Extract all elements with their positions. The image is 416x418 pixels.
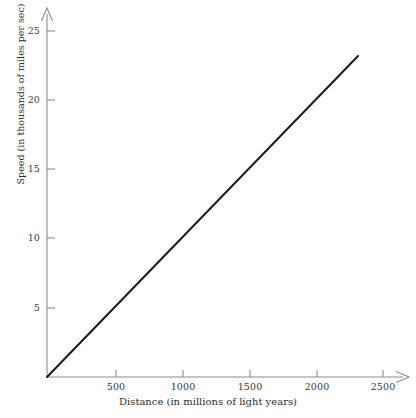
x-tick-label-2500: 2500 [361, 381, 405, 392]
x-tick-label-2000: 2000 [295, 381, 339, 392]
y-axis-title: Speed (in thousands of miles per sec) [13, 0, 29, 194]
x-axis-title: Distance (in millions of light years) [0, 396, 416, 407]
y-tick-label-5: 5 [14, 302, 40, 313]
data-line-speed-vs-distance [47, 56, 358, 377]
chart-plot-area [0, 0, 416, 418]
x-axis-ticks [116, 370, 383, 377]
x-tick-label-1500: 1500 [228, 381, 272, 392]
x-tick-label-1000: 1000 [161, 381, 205, 392]
y-axis-ticks [47, 31, 55, 308]
y-axis-title-wrapper: Speed (in thousands of miles per sec) [13, 0, 29, 194]
y-tick-label-10: 10 [14, 232, 40, 243]
x-tick-label-500: 500 [94, 381, 138, 392]
chart-container: 25 20 15 10 5 500 1000 1500 2000 2500 Di… [0, 0, 416, 418]
